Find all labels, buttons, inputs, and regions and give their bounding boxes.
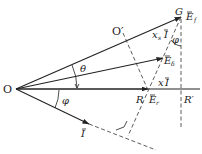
label-theta: θ: [80, 63, 86, 74]
ef-phasor-arrow: [16, 17, 181, 89]
label-r-prime: R′: [183, 94, 195, 105]
label-origin-o: O: [3, 83, 12, 96]
label-phi-upper: φ: [172, 34, 179, 45]
o-prime-dashed-line: [123, 33, 147, 88]
label-x-i: x I: [158, 77, 170, 88]
right-angle-marker: [116, 121, 127, 130]
current-phasor-arrow: [16, 89, 89, 124]
svg-text:x: x: [158, 77, 164, 88]
edelta-phasor-arrow: [16, 58, 163, 89]
label-current: I: [80, 128, 86, 139]
label-g: G: [175, 6, 183, 17]
phi-lower-arc: [55, 90, 59, 108]
svg-text:s: s: [158, 34, 161, 41]
label-o-prime: O′: [112, 25, 124, 38]
svg-text:I: I: [80, 128, 86, 139]
label-edelta: E δ: [163, 55, 175, 67]
svg-text:E: E: [185, 11, 194, 22]
label-r: R: [135, 94, 144, 105]
svg-text:r: r: [156, 99, 160, 106]
svg-text:f: f: [193, 16, 198, 24]
label-xs-i: x s I: [152, 29, 169, 41]
label-ef: E f: [185, 11, 198, 24]
label-phi-lower: φ: [62, 95, 69, 106]
svg-text:I: I: [164, 77, 170, 88]
label-er: E r: [148, 94, 160, 106]
svg-text:δ: δ: [171, 60, 175, 67]
phasor-diagram: O O′ G R R′ E f E δ E r I x s I x I θ φ …: [0, 0, 202, 154]
svg-text:I: I: [163, 29, 169, 40]
